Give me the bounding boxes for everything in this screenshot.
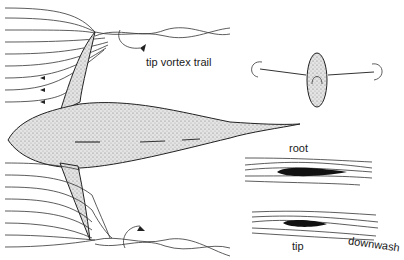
front-view (252, 53, 382, 107)
wing-vortex-diagram: tip vortex trail root tip downwash (0, 0, 404, 260)
upper-streamlines (5, 8, 108, 102)
diagram-drawing (0, 0, 404, 260)
upper-fin (60, 32, 95, 112)
lower-streamlines (5, 163, 112, 247)
upper-tip-vortex (95, 28, 230, 49)
tip-label: tip (292, 240, 304, 252)
lower-fin (60, 163, 90, 240)
lower-tip-vortex (95, 226, 230, 256)
tip-vortex-trail-label: tip vortex trail (146, 56, 211, 68)
root-label: root (289, 142, 308, 154)
